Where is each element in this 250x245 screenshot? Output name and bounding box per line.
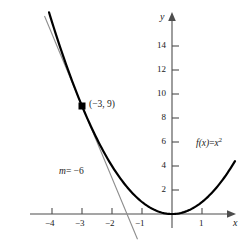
slope-label-value: = −6: [66, 166, 84, 176]
function-label: f(x)=x2: [196, 139, 222, 149]
y-tick-label-2: 2: [152, 185, 166, 194]
coordinate-plot: [0, 0, 250, 245]
function-label-exponent: 2: [219, 136, 222, 143]
tangent-point-marker: [79, 103, 86, 110]
x-tick-label-minus3: −3: [75, 219, 85, 228]
x-tick-label-minus4: −4: [45, 219, 55, 228]
function-label-name: f(x): [196, 138, 209, 148]
y-tick-label-4: 4: [152, 161, 166, 170]
point-coordinate-label: (−3, 9): [89, 100, 115, 110]
x-tick-label-minus2: −2: [105, 219, 115, 228]
x-tick-label-minus1: −1: [135, 219, 145, 228]
y-tick-label-10: 10: [152, 89, 166, 98]
y-axis-arrowhead: [168, 12, 176, 21]
slope-label: m= −6: [59, 167, 84, 177]
y-tick-label-14: 14: [152, 41, 166, 50]
y-tick-label-8: 8: [152, 113, 166, 122]
y-tick-label-12: 12: [152, 65, 166, 74]
x-tick-label-1: 1: [199, 219, 204, 228]
graph-figure: 14 12 10 8 6 4 2 −4 −3 −2 −1 1 y x (−3, …: [0, 0, 250, 245]
parabola-curve: [49, 12, 235, 214]
slope-label-variable: m: [59, 166, 66, 176]
y-axis-label: y: [160, 12, 164, 22]
x-axis-label: x: [233, 218, 237, 228]
y-tick-label-6: 6: [152, 137, 166, 146]
y-axis-ticks: [172, 46, 179, 190]
